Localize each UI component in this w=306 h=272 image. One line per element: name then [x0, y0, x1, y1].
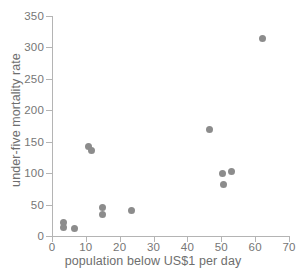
y-axis-title: under-five mortality rate: [9, 30, 23, 210]
y-tick-label: 200: [24, 104, 44, 116]
plot-area: [52, 16, 289, 236]
scatter-plot-figure: 050100150200250300350 010203040506070 po…: [0, 0, 306, 272]
y-tick-label: 350: [24, 10, 44, 22]
y-tick-label: 250: [24, 73, 44, 85]
x-axis-title: population below US$1 per day: [0, 254, 306, 268]
x-tick-label: 60: [249, 241, 262, 253]
y-tick-label: 0: [37, 230, 44, 242]
x-tick-label: 10: [79, 241, 92, 253]
x-tick-label: 0: [49, 241, 56, 253]
y-tick-label: 50: [31, 199, 44, 211]
x-tick-label: 70: [282, 241, 295, 253]
data-point: [71, 225, 78, 232]
x-tick-label: 40: [181, 241, 194, 253]
data-point: [228, 168, 235, 175]
data-point: [206, 126, 213, 133]
data-point: [99, 211, 106, 218]
x-tick-label: 20: [113, 241, 126, 253]
y-tick-label: 100: [24, 167, 44, 179]
data-point: [259, 35, 266, 42]
x-tick-label: 30: [147, 241, 160, 253]
y-tick-label: 300: [24, 41, 44, 53]
data-point: [220, 181, 227, 188]
data-point: [88, 147, 95, 154]
data-point: [128, 207, 135, 214]
data-point: [99, 204, 106, 211]
y-tick-label: 150: [24, 136, 44, 148]
x-tick-label: 50: [215, 241, 228, 253]
data-point: [219, 170, 226, 177]
